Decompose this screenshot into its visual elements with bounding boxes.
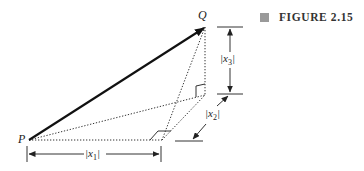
x1-main: |x xyxy=(85,147,93,159)
dimension-label-x3: |x3| xyxy=(220,53,235,67)
x3-close: | xyxy=(232,52,235,64)
figure-marker xyxy=(260,13,269,22)
point-label-Q: Q xyxy=(198,9,207,21)
x2-main: |x xyxy=(205,107,213,119)
vector-diagram xyxy=(0,0,364,171)
figure-caption: FIGURE 2.15 xyxy=(279,11,353,23)
point-label-P: P xyxy=(18,133,25,145)
line-P-R xyxy=(29,95,205,140)
line-Q-S xyxy=(162,27,205,140)
x3-main: |x xyxy=(220,52,228,64)
x2-close: | xyxy=(217,107,220,119)
x1-close: | xyxy=(97,147,100,159)
dimension-label-x1: |x1| xyxy=(85,148,100,162)
dimension-label-x2: |x2| xyxy=(205,108,220,122)
right-angle-S xyxy=(150,131,171,140)
vector-PQ xyxy=(29,28,204,140)
